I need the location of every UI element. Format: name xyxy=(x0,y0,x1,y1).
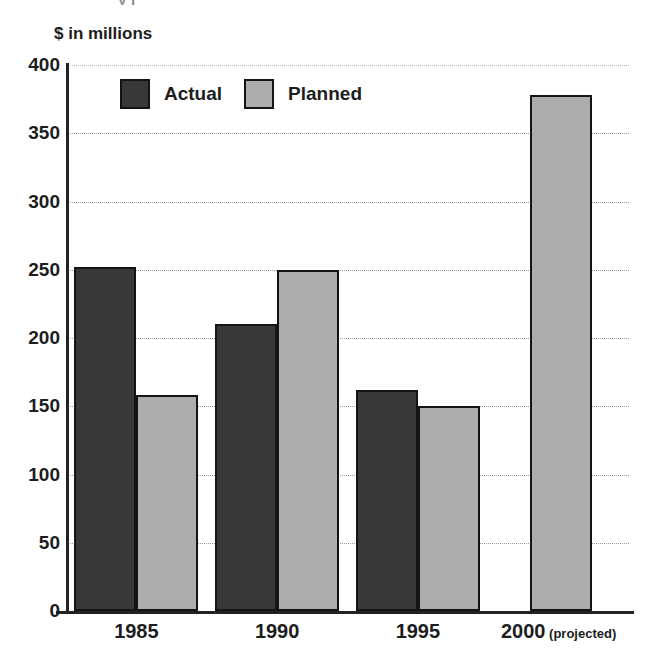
x-tick-label-2000: 2000 xyxy=(501,620,546,642)
x-axis-line xyxy=(56,611,634,614)
y-tick-label-400: 400 xyxy=(4,54,60,76)
bar-1990-planned xyxy=(277,270,339,611)
legend-item-actual: Actual xyxy=(120,79,222,109)
x-label-group-1995: 1995 xyxy=(396,620,441,643)
x-tick-label-suffix-2000: (projected) xyxy=(545,626,616,641)
x-tick-label-1995: 1995 xyxy=(396,620,441,642)
y-tick-label-100: 100 xyxy=(4,464,60,486)
y-tick-label-300: 300 xyxy=(4,191,60,213)
plot-area xyxy=(66,65,629,611)
y-tick-label-200: 200 xyxy=(4,327,60,349)
x-tick-label-1990: 1990 xyxy=(255,620,300,642)
x-label-group-1990: 1990 xyxy=(255,620,300,643)
legend-swatch-planned-icon xyxy=(244,79,274,109)
bar-2000-planned xyxy=(530,95,592,611)
y-tick-label-150: 150 xyxy=(4,395,60,417)
x-label-group-1985: 1985 xyxy=(114,620,159,643)
bar-1985-actual xyxy=(74,267,136,611)
y-tick-label-250: 250 xyxy=(4,259,60,281)
bar-1990-actual xyxy=(215,324,277,611)
x-tick-label-1985: 1985 xyxy=(114,620,159,642)
legend-label-actual: Actual xyxy=(164,83,222,105)
legend-swatch-actual-icon xyxy=(120,79,150,109)
bar-chart: $ in millions 050100150200250300350400 A… xyxy=(0,0,645,664)
y-axis-line xyxy=(66,63,69,613)
y-tick-label-0: 0 xyxy=(4,600,60,622)
bar-1995-actual xyxy=(356,390,418,611)
y-axis-title: $ in millions xyxy=(54,24,152,44)
y-tick-label-350: 350 xyxy=(4,122,60,144)
x-label-group-2000: 2000 (projected) xyxy=(501,620,616,643)
legend-item-planned: Planned xyxy=(244,79,362,109)
gridline-400 xyxy=(66,65,629,66)
y-axis-tick-labels: 050100150200250300350400 xyxy=(0,0,60,664)
legend-label-planned: Planned xyxy=(288,83,362,105)
bar-1985-planned xyxy=(136,395,198,611)
x-axis-tick-labels: 1985199019952000 (projected) xyxy=(0,620,645,654)
bar-1995-planned xyxy=(418,406,480,611)
y-tick-label-50: 50 xyxy=(4,532,60,554)
chart-legend: Actual Planned xyxy=(120,79,362,109)
